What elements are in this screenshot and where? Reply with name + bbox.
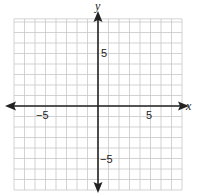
y-tick-label-neg5: −5	[100, 153, 113, 165]
x-tick-label-5: 5	[146, 109, 152, 121]
y-axis	[94, 11, 103, 193]
x-tick-label-neg5: −5	[36, 109, 49, 121]
coordinate-plane: −5 5 5 −5 x y	[0, 0, 198, 195]
y-axis-label: y	[94, 0, 101, 13]
y-tick-label-5: 5	[101, 47, 107, 59]
x-axis-label: x	[185, 99, 192, 113]
